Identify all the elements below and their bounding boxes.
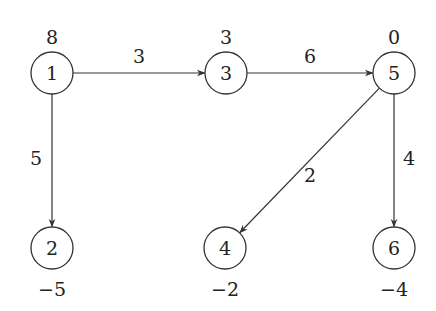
node-6: 6 −4 (373, 227, 415, 300)
edge-weight-1-3: 3 (133, 45, 145, 67)
node-1: 1 8 (31, 26, 73, 94)
network-flow-graph: 3 6 5 2 4 1 8 3 3 5 0 2 −5 4 −2 6 −4 (0, 0, 436, 311)
node-supply: −4 (380, 278, 408, 300)
node-label: 5 (388, 62, 400, 84)
node-supply: 3 (220, 26, 232, 48)
node-5: 5 0 (373, 26, 415, 94)
node-4: 4 −2 (204, 227, 246, 300)
edge-weight-3-5: 6 (304, 45, 316, 67)
edges (52, 73, 394, 233)
node-2: 2 −5 (31, 227, 73, 300)
node-supply: 8 (46, 26, 58, 48)
node-label: 1 (46, 62, 58, 84)
node-3: 3 3 (205, 26, 247, 94)
node-label: 4 (219, 237, 231, 259)
edge-5-4 (240, 88, 379, 232)
node-supply: −2 (211, 278, 239, 300)
node-label: 2 (46, 237, 58, 259)
node-supply: −5 (38, 278, 66, 300)
node-label: 6 (388, 237, 400, 259)
node-supply: 0 (388, 26, 400, 48)
node-label: 3 (220, 62, 232, 84)
edge-weight-1-2: 5 (30, 147, 42, 169)
edge-weight-5-4: 2 (304, 164, 316, 186)
edge-weight-5-6: 4 (403, 147, 415, 169)
